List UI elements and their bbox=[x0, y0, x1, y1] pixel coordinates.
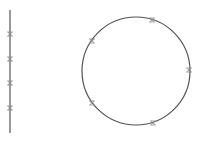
diagram-canvas bbox=[0, 0, 209, 146]
circle-shape bbox=[82, 17, 190, 125]
circle-marker-icon bbox=[187, 68, 192, 72]
